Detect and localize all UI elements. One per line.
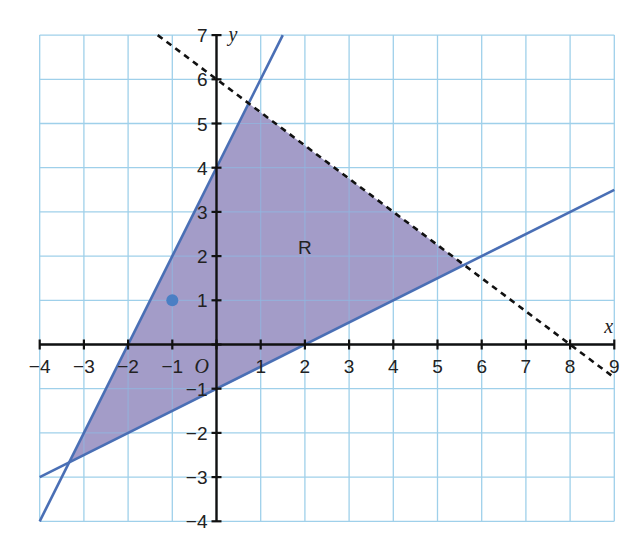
x-tick-label: −1 <box>161 356 183 377</box>
x-tick-label: 9 <box>609 356 620 377</box>
marked-point <box>166 294 178 306</box>
y-tick-label: 3 <box>197 202 208 223</box>
x-tick-label: 8 <box>565 356 576 377</box>
x-tick-label: 6 <box>476 356 487 377</box>
y-tick-label: −2 <box>186 423 208 444</box>
y-tick-label: 2 <box>197 246 208 267</box>
chart: −4−3−2−1123456789−4−3−2−11234567 R x y O <box>0 0 642 552</box>
x-axis-label: x <box>603 315 613 337</box>
y-tick-label: 5 <box>197 114 208 135</box>
x-tick-label: −4 <box>29 356 51 377</box>
x-tick-label: 2 <box>300 356 311 377</box>
y-tick-label: 7 <box>197 25 208 46</box>
y-tick-label: 1 <box>197 290 208 311</box>
x-tick-label: −2 <box>117 356 139 377</box>
x-tick-label: 5 <box>432 356 443 377</box>
x-tick-label: 3 <box>344 356 355 377</box>
y-tick-label: 4 <box>197 158 208 179</box>
x-tick-label: −3 <box>73 356 95 377</box>
y-tick-label: 6 <box>197 69 208 90</box>
region-label: R <box>298 237 312 258</box>
x-tick-label: 7 <box>521 356 532 377</box>
y-tick-label: −3 <box>186 467 208 488</box>
data-points <box>166 294 178 306</box>
x-tick-label: 1 <box>255 356 266 377</box>
y-tick-label: −4 <box>186 511 208 532</box>
y-tick-label: −1 <box>186 379 208 400</box>
x-tick-label: 4 <box>388 356 399 377</box>
y-axis-label: y <box>227 23 238 46</box>
origin-label: O <box>195 355 209 377</box>
